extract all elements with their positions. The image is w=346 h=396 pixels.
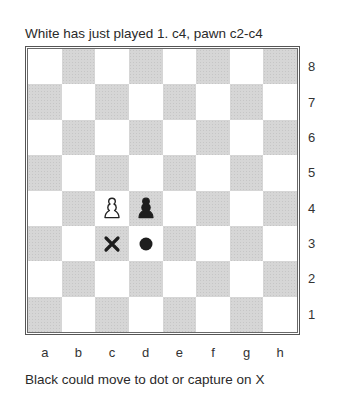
square-g4 xyxy=(230,191,264,226)
board-grid xyxy=(27,48,298,333)
square-f3 xyxy=(196,226,230,261)
square-h8 xyxy=(263,49,297,84)
file-label-a: a xyxy=(28,343,62,361)
square-h2 xyxy=(263,261,297,296)
square-h1 xyxy=(263,297,297,332)
square-f5 xyxy=(196,155,230,190)
square-c6 xyxy=(95,120,129,155)
chess-board xyxy=(25,46,300,335)
dot-icon xyxy=(138,236,154,252)
square-f1 xyxy=(196,297,230,332)
square-b7 xyxy=(62,84,96,119)
square-b5 xyxy=(62,155,96,190)
diagram-caption-bottom: Black could move to dot or capture on X xyxy=(25,372,264,387)
square-g5 xyxy=(230,155,264,190)
diagram-caption-top: White has just played 1. c4, pawn c2-c4 xyxy=(25,26,263,41)
file-label-d: d xyxy=(129,343,163,361)
black-pawn-icon xyxy=(136,196,156,220)
rank-label-2: 2 xyxy=(308,261,328,296)
square-d7 xyxy=(129,84,163,119)
square-d6 xyxy=(129,120,163,155)
square-e6 xyxy=(163,120,197,155)
square-h3 xyxy=(263,226,297,261)
square-c5 xyxy=(95,155,129,190)
file-labels: abcdefgh xyxy=(28,343,297,361)
square-a1 xyxy=(28,297,62,332)
square-g6 xyxy=(230,120,264,155)
square-e1 xyxy=(163,297,197,332)
square-h5 xyxy=(263,155,297,190)
square-e2 xyxy=(163,261,197,296)
square-a7 xyxy=(28,84,62,119)
square-a4 xyxy=(28,191,62,226)
square-b2 xyxy=(62,261,96,296)
rank-label-4: 4 xyxy=(308,191,328,226)
file-label-f: f xyxy=(196,343,230,361)
square-a8 xyxy=(28,49,62,84)
file-label-b: b xyxy=(62,343,96,361)
rank-label-8: 8 xyxy=(308,49,328,84)
white-pawn-icon xyxy=(102,196,122,220)
square-g1 xyxy=(230,297,264,332)
rank-label-1: 1 xyxy=(308,297,328,332)
square-f7 xyxy=(196,84,230,119)
square-a6 xyxy=(28,120,62,155)
square-a5 xyxy=(28,155,62,190)
square-d2 xyxy=(129,261,163,296)
square-d1 xyxy=(129,297,163,332)
square-a2 xyxy=(28,261,62,296)
rank-label-6: 6 xyxy=(308,120,328,155)
square-g3 xyxy=(230,226,264,261)
cross-icon xyxy=(103,235,121,253)
square-h6 xyxy=(263,120,297,155)
square-c7 xyxy=(95,84,129,119)
square-e8 xyxy=(163,49,197,84)
square-d4 xyxy=(129,191,163,226)
square-b6 xyxy=(62,120,96,155)
square-h7 xyxy=(263,84,297,119)
square-b1 xyxy=(62,297,96,332)
square-c3 xyxy=(95,226,129,261)
square-c1 xyxy=(95,297,129,332)
rank-labels: 87654321 xyxy=(308,49,328,332)
square-a3 xyxy=(28,226,62,261)
rank-label-5: 5 xyxy=(308,155,328,190)
file-label-h: h xyxy=(263,343,297,361)
square-g2 xyxy=(230,261,264,296)
square-f6 xyxy=(196,120,230,155)
square-c4 xyxy=(95,191,129,226)
square-b3 xyxy=(62,226,96,261)
rank-label-7: 7 xyxy=(308,84,328,119)
square-f8 xyxy=(196,49,230,84)
rank-label-3: 3 xyxy=(308,226,328,261)
square-e4 xyxy=(163,191,197,226)
square-g7 xyxy=(230,84,264,119)
square-e7 xyxy=(163,84,197,119)
square-h4 xyxy=(263,191,297,226)
square-d3 xyxy=(129,226,163,261)
file-label-e: e xyxy=(163,343,197,361)
square-e5 xyxy=(163,155,197,190)
square-f4 xyxy=(196,191,230,226)
square-d8 xyxy=(129,49,163,84)
square-e3 xyxy=(163,226,197,261)
square-c8 xyxy=(95,49,129,84)
square-f2 xyxy=(196,261,230,296)
file-label-c: c xyxy=(95,343,129,361)
square-c2 xyxy=(95,261,129,296)
square-b4 xyxy=(62,191,96,226)
file-label-g: g xyxy=(230,343,264,361)
square-g8 xyxy=(230,49,264,84)
square-d5 xyxy=(129,155,163,190)
square-b8 xyxy=(62,49,96,84)
